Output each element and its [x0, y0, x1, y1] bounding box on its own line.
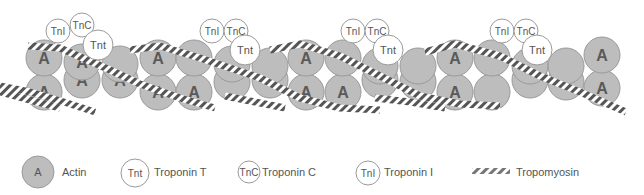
troponin-t-label: Tnt	[237, 44, 253, 56]
tropomyosin-strand	[225, 96, 285, 108]
actin-letter: A	[152, 50, 164, 67]
legend-label-actin: Actin	[62, 166, 86, 178]
legend-item-troponin-t: Tnt Troponin T	[121, 159, 207, 187]
troponin-t: Tnt	[83, 30, 113, 60]
troponin-c-label: TnC	[73, 20, 92, 31]
troponin-i: TnI	[490, 19, 514, 43]
troponin-t: Tnt	[522, 35, 552, 65]
actin-letter: A	[38, 50, 50, 67]
thin-filament-diagram: AAAAAAAAAAAAAAA TnITnCTntTnITnCTntTnITnC…	[0, 0, 644, 195]
tropomyosin-icon	[472, 168, 510, 174]
legend-label-troponin-c: Troponin C	[262, 166, 316, 178]
actin-subunit-top: A	[584, 37, 620, 73]
troponin-i: TnI	[200, 19, 224, 43]
troponin-i: TnI	[46, 19, 70, 43]
troponin-i-label: TnI	[205, 26, 219, 37]
troponin-i-label: TnI	[346, 26, 360, 37]
troponin-t: Tnt	[230, 35, 260, 65]
troponin-t-label: Tnt	[380, 44, 396, 56]
legend-item-troponin-c: TnC Troponin C	[238, 161, 316, 183]
troponin-i-icon-letter: TnI	[361, 168, 375, 179]
legend-label-troponin-t: Troponin T	[154, 166, 207, 178]
actin-icon-letter: A	[34, 166, 42, 178]
troponin-i-label: TnI	[51, 26, 65, 37]
troponin-i: TnI	[341, 19, 365, 43]
actin-letter: A	[300, 50, 312, 67]
troponin-t-label: Tnt	[90, 39, 106, 51]
actin-letter: A	[596, 80, 608, 97]
troponin-i-label: TnI	[495, 26, 509, 37]
legend-label-troponin-i: Troponin I	[384, 166, 433, 178]
legend: A Actin Tnt Troponin T TnC Troponin C Tn…	[22, 156, 579, 188]
troponin-t-label: Tnt	[529, 44, 545, 56]
actin-letter: A	[337, 84, 349, 101]
actin-letter: A	[449, 50, 461, 67]
legend-item-troponin-i: TnI Troponin I	[356, 161, 433, 185]
troponin-c-icon-letter: TnC	[240, 167, 259, 178]
legend-item-tropomyosin: Tropomyosin	[472, 166, 579, 178]
troponin-t-icon-letter: Tnt	[128, 168, 143, 179]
actin-letter: A	[596, 47, 608, 64]
troponin-t: Tnt	[373, 35, 403, 65]
legend-label-tropomyosin: Tropomyosin	[516, 166, 579, 178]
legend-item-actin: A Actin	[22, 156, 86, 188]
actin-letter: A	[449, 84, 461, 101]
